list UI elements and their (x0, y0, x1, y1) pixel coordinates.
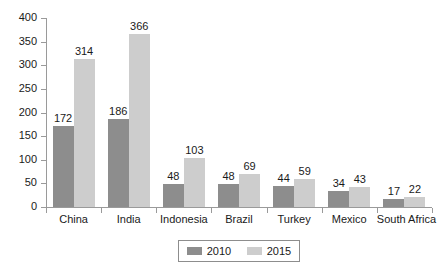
bar-value-label: 48 (222, 171, 234, 182)
bar-2010-brazil[interactable]: 48 (218, 184, 239, 207)
legend-swatch-icon (187, 247, 202, 255)
legend-label: 2015 (267, 246, 291, 257)
bar-2015-south-africa[interactable]: 22 (404, 197, 425, 207)
bar-group: 4459 (273, 18, 315, 207)
bar-value-label: 59 (299, 166, 311, 177)
bar-value-label: 366 (130, 21, 148, 32)
bar-group: 186366 (108, 18, 150, 207)
x-axis-category-label: China (46, 213, 101, 226)
bar-group: 48103 (163, 18, 205, 207)
y-axis-tick-label: 50 (3, 177, 37, 188)
y-axis-tick-label: 150 (3, 130, 37, 141)
x-axis-category-label: Mexico (322, 213, 377, 226)
bar-group: 1722 (383, 18, 425, 207)
bar-value-label: 34 (333, 178, 345, 189)
y-axis-tick-label: 300 (3, 59, 37, 70)
bar-group: 172314 (53, 18, 95, 207)
y-axis-tick-label: 200 (3, 107, 37, 118)
y-axis-tick-label: 350 (3, 36, 37, 47)
bar-2010-south-africa[interactable]: 17 (383, 199, 404, 207)
x-axis-category-label: Turkey (267, 213, 322, 226)
bar-value-label: 17 (388, 186, 400, 197)
bar-2010-china[interactable]: 172 (53, 126, 74, 207)
legend-swatch-icon (247, 247, 262, 255)
bar-2010-india[interactable]: 186 (108, 119, 129, 207)
y-axis-tick-label: 400 (3, 12, 37, 23)
bar-2010-mexico[interactable]: 34 (328, 191, 349, 207)
x-axis-line (46, 207, 432, 208)
bar-2010-indonesia[interactable]: 48 (163, 184, 184, 207)
y-axis-tick-label: 0 (3, 201, 37, 212)
y-axis-tick-label: 100 (3, 154, 37, 165)
x-axis-category-label: Indonesia (156, 213, 211, 226)
bar-2015-turkey[interactable]: 59 (294, 179, 315, 207)
bar-value-label: 186 (109, 106, 127, 117)
bar-value-label: 44 (278, 173, 290, 184)
bar-value-label: 22 (409, 184, 421, 195)
bar-chart: 050100150200250300350400 172314186366481… (0, 0, 447, 272)
plot-area: 172314186366481034869445934431722 (46, 18, 432, 207)
bar-value-label: 172 (54, 113, 72, 124)
legend-item-2015[interactable]: 2015 (247, 246, 291, 257)
bar-2015-brazil[interactable]: 69 (239, 174, 260, 207)
bar-2015-mexico[interactable]: 43 (349, 187, 370, 207)
bar-value-label: 43 (354, 174, 366, 185)
bar-2015-india[interactable]: 366 (129, 34, 150, 207)
bar-2010-turkey[interactable]: 44 (273, 186, 294, 207)
bar-group: 3443 (328, 18, 370, 207)
bar-2015-china[interactable]: 314 (74, 59, 95, 207)
bar-2015-indonesia[interactable]: 103 (184, 158, 205, 207)
legend-item-2010[interactable]: 2010 (187, 246, 231, 257)
y-axis-tick-label: 250 (3, 83, 37, 94)
bar-group: 4869 (218, 18, 260, 207)
chart-legend: 20102015 (178, 240, 300, 262)
x-axis-category-label: India (101, 213, 156, 226)
bar-value-label: 69 (243, 161, 255, 172)
bar-value-label: 103 (185, 145, 203, 156)
bar-value-label: 48 (167, 171, 179, 182)
bar-value-label: 314 (75, 46, 93, 57)
legend-label: 2010 (207, 246, 231, 257)
x-axis-category-label: South Africa (377, 213, 432, 226)
x-axis-category-label: Brazil (211, 213, 266, 226)
